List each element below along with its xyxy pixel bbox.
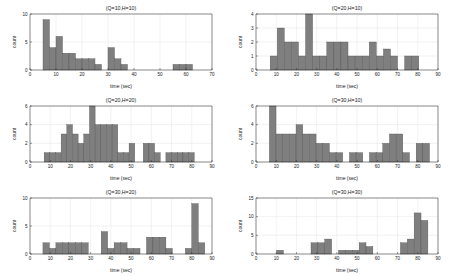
histogram-bar — [76, 59, 83, 70]
ytick-label: 0 — [25, 160, 28, 165]
xtick-label: 20 — [294, 256, 300, 261]
histogram-bar — [155, 153, 161, 162]
histogram-bar — [389, 134, 396, 162]
xtick-label: 10 — [48, 164, 54, 169]
xtick-label: 50 — [157, 72, 163, 77]
xtick-label: 20 — [68, 164, 74, 169]
xtick-label: 60 — [375, 72, 381, 77]
histogram-bar — [416, 143, 423, 162]
xtick-label: 50 — [355, 72, 361, 77]
xtick-label: 90 — [435, 72, 441, 77]
xtick-label: 90 — [435, 164, 441, 169]
histogram-bar — [359, 243, 366, 254]
histogram-bar — [62, 243, 68, 254]
xtick-label: 0 — [255, 256, 258, 261]
xtick-label: 40 — [334, 164, 340, 169]
ytick-label: 2 — [251, 141, 254, 146]
chart-q10h10: 0102030405060700510(Q=10,H=10)time (sec)… — [0, 0, 226, 92]
xtick-label: 10 — [274, 164, 280, 169]
histogram-bar — [189, 153, 195, 162]
xtick-label: 40 — [334, 72, 340, 77]
xtick-label: 10 — [274, 256, 280, 261]
ytick-label: 4 — [251, 122, 254, 127]
xtick-label: 0 — [29, 256, 32, 261]
histogram-bar — [355, 56, 362, 70]
histogram-bar — [400, 243, 407, 254]
xtick-label: 20 — [294, 72, 300, 77]
subplot-q20h10: 010203040506070809001234(Q=20,H=10)time … — [226, 0, 452, 92]
ytick-label: 4 — [25, 122, 28, 127]
chart-title: (Q=20,H=20) — [106, 97, 137, 103]
x-axis-label: time (sec) — [110, 83, 132, 89]
histogram-bar — [276, 134, 283, 162]
xtick-label: 90 — [435, 256, 441, 261]
histogram-bar — [296, 125, 303, 162]
histogram-bar — [173, 64, 180, 70]
histogram-bar — [115, 59, 122, 70]
histogram-bar — [366, 247, 373, 254]
xtick-label: 60 — [149, 256, 155, 261]
histogram-bar — [72, 134, 78, 162]
histogram-bar — [172, 153, 178, 162]
histogram-bar — [323, 143, 330, 162]
xtick-label: 20 — [294, 164, 300, 169]
histogram-bar — [67, 125, 73, 162]
xtick-label: 70 — [395, 72, 401, 77]
chart-q20h10: 010203040506070809001234(Q=20,H=10)time … — [226, 0, 452, 92]
histogram-bar — [50, 48, 57, 70]
histogram-bar — [352, 250, 359, 254]
histogram-bar — [403, 153, 410, 162]
histogram-bar — [69, 243, 75, 254]
histogram-bar — [143, 143, 149, 162]
histogram-bar — [177, 153, 183, 162]
xtick-label: 70 — [169, 164, 175, 169]
xtick-label: 60 — [183, 72, 189, 77]
y-axis-label: count — [11, 127, 17, 140]
histogram-bar — [298, 56, 305, 70]
histogram-bar — [118, 153, 124, 162]
histogram-bar — [146, 237, 152, 254]
histogram-bar — [44, 153, 50, 162]
histogram-bar — [101, 232, 107, 254]
histogram-bar — [108, 48, 115, 70]
histogram-bar — [284, 42, 291, 70]
histogram-bar — [180, 64, 187, 70]
ytick-label: 10 — [248, 214, 254, 219]
histogram-bar — [383, 143, 390, 162]
histogram-bar — [309, 134, 316, 162]
x-axis-label: time (sec) — [336, 83, 358, 89]
histogram-bar — [186, 64, 193, 70]
histogram-bar — [412, 56, 419, 70]
ytick-label: 10 — [22, 196, 28, 201]
histogram-bar — [112, 125, 118, 162]
histogram-bar — [320, 56, 327, 70]
histogram-bar — [376, 56, 383, 70]
histogram-bar — [63, 53, 70, 70]
subplot-q30h20: 01020304050607080900510(Q=30,H=20)time (… — [0, 184, 226, 276]
histogram-bar — [348, 56, 355, 70]
histogram-bar — [95, 125, 101, 162]
histogram-bar — [159, 237, 165, 254]
x-axis-label: time (sec) — [336, 267, 358, 273]
xtick-label: 0 — [255, 164, 258, 169]
histogram-bar — [89, 59, 96, 70]
xtick-label: 50 — [355, 164, 361, 169]
chart-title: (Q=30,H=10) — [332, 97, 363, 103]
xtick-label: 30 — [314, 256, 320, 261]
histogram-bar — [316, 143, 323, 162]
histogram-bar — [56, 36, 63, 70]
ytick-label: 0 — [251, 252, 254, 257]
xtick-label: 50 — [129, 256, 135, 261]
histogram-bar — [56, 243, 62, 254]
histogram-bar — [192, 204, 198, 254]
histogram-bar — [325, 239, 332, 254]
xtick-label: 0 — [29, 72, 32, 77]
histogram-bar — [405, 56, 412, 70]
histogram-bar — [421, 220, 428, 254]
ytick-label: 6 — [251, 104, 254, 109]
histogram-bar — [270, 56, 277, 70]
y-axis-label: count — [237, 127, 243, 140]
xtick-label: 70 — [395, 256, 401, 261]
histogram-bar — [183, 153, 189, 162]
histogram-bar — [121, 243, 127, 254]
